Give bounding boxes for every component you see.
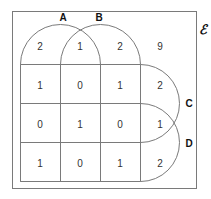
region-count: 9 [157,41,163,52]
region-count: 0 [77,80,83,91]
region-count: 1 [77,119,83,130]
region-count: 1 [77,41,83,52]
region-count: 2 [157,80,163,91]
region-count: 0 [77,158,83,169]
set-c-label: C [185,98,192,109]
region-count: 2 [157,158,163,169]
set-a-label: A [59,12,66,23]
region-count: 1 [37,158,43,169]
region-count: 1 [37,80,43,91]
region-count: 1 [117,158,123,169]
set-d-label: D [185,138,192,149]
region-count: 0 [37,119,43,130]
venn-diagram: A B C D ℰ 2 1 2 9 1 0 1 2 0 1 0 1 1 0 1 … [0,0,211,199]
set-b-label: B [95,12,102,23]
region-count: 0 [117,119,123,130]
universal-set-label: ℰ [199,22,209,37]
region-count: 1 [117,80,123,91]
region-count: 2 [37,41,43,52]
region-count: 1 [157,119,163,130]
region-count: 2 [117,41,123,52]
